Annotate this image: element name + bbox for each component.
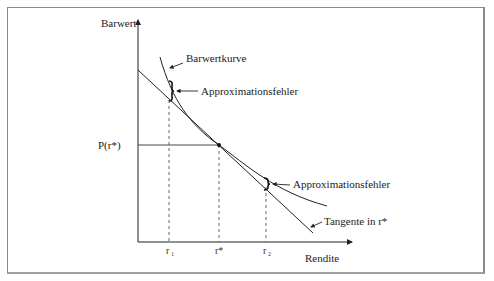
tangent-point	[217, 143, 221, 147]
y-axis-label: Barwert	[101, 17, 136, 29]
r1-label: r	[166, 245, 170, 256]
r2-subscript: 2	[268, 251, 271, 257]
x-tick-r1: r 1	[166, 245, 174, 257]
tangent-label-arrow	[311, 222, 322, 227]
p-rstar-label: P(r*)	[98, 139, 121, 152]
r1-subscript: 1	[171, 251, 174, 257]
curve-label: Barwertkurve	[186, 52, 247, 64]
duration-approximation-diagram: Barwert Rendite P(r*) Barwertkurve Appro…	[0, 0, 494, 281]
error-label-top: Approximationsfehler	[201, 85, 298, 97]
x-tick-r2: r 2	[263, 245, 271, 257]
curve-label-arrow	[170, 63, 183, 68]
x-axis-label: Rendite	[305, 252, 339, 264]
r2-label: r	[263, 245, 267, 256]
rstar-label: r*	[215, 245, 223, 256]
error-label-bottom: Approximationsfehler	[293, 178, 390, 190]
tangent-label: Tangente in r*	[324, 215, 387, 227]
